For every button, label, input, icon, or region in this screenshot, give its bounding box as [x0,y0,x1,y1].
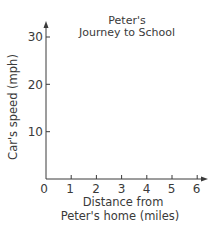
x-tick-label-5: 5 [168,182,176,196]
y-tick-label-20: 20 [28,78,43,92]
x-tick-label-2: 2 [92,182,100,196]
x-tick-label-6: 6 [193,182,201,196]
x-ticks: 0 1 2 3 4 5 6 [40,175,200,196]
y-tick-label-10: 10 [28,125,43,139]
x-tick-label-0: 0 [40,182,48,196]
y-axis-label: Car's speed (mph) [6,54,20,160]
x-axis-arrow-icon [201,177,208,182]
y-ticks: 10 20 30 [28,30,50,139]
y-axis-arrow-icon [44,21,49,28]
speed-distance-chart: Peter's Journey to School 10 20 30 0 1 2… [0,0,218,233]
x-axis-label-line-2: Peter's home (miles) [61,209,180,223]
y-tick-label-30: 30 [28,30,43,44]
x-axis-label-line-1: Distance from [83,195,164,209]
x-tick-label-4: 4 [143,182,151,196]
x-tick-label-1: 1 [66,182,74,196]
x-tick-label-3: 3 [118,182,126,196]
chart-title-line-2: Journey to School [78,26,175,39]
